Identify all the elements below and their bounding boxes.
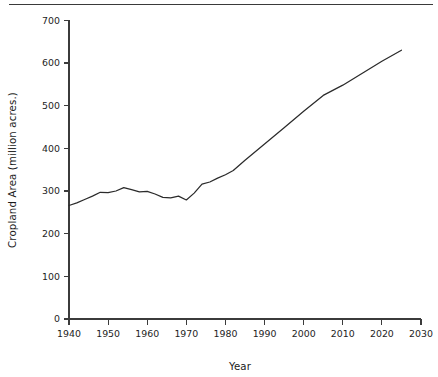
y-tick-label: 100 bbox=[42, 271, 60, 282]
x-tick-label: 1950 bbox=[96, 328, 120, 339]
x-tick-label: 1940 bbox=[57, 328, 81, 339]
y-axis-title: Cropland Area (million acres.) bbox=[7, 92, 18, 248]
x-tick-label: 1970 bbox=[174, 328, 198, 339]
x-tick-label: 2000 bbox=[292, 328, 316, 339]
x-tick-label: 2010 bbox=[331, 328, 355, 339]
x-tick-label: 2020 bbox=[370, 328, 394, 339]
y-axis: 0100200300400500600700 bbox=[42, 15, 69, 325]
y-tick-label: 300 bbox=[42, 185, 60, 196]
x-tick-label: 1990 bbox=[253, 328, 277, 339]
x-axis: 1940195019601970198019902000201020202030 bbox=[57, 319, 433, 339]
series-line-cropland-area bbox=[69, 50, 401, 205]
y-tick-label: 700 bbox=[42, 15, 60, 26]
y-tick-label: 0 bbox=[54, 313, 60, 324]
x-tick-label: 2030 bbox=[409, 328, 433, 339]
y-tick-label: 500 bbox=[42, 100, 60, 111]
x-axis-title: Year bbox=[228, 361, 252, 372]
x-tick-label: 1980 bbox=[214, 328, 238, 339]
y-tick-label: 600 bbox=[42, 57, 60, 68]
x-tick-label: 1960 bbox=[135, 328, 159, 339]
chart-figure: 0100200300400500600700 19401950196019701… bbox=[0, 0, 438, 377]
line-chart-plot: 0100200300400500600700 19401950196019701… bbox=[0, 0, 438, 377]
data-series-group bbox=[69, 50, 401, 205]
y-tick-label: 200 bbox=[42, 228, 60, 239]
y-tick-label: 400 bbox=[42, 143, 60, 154]
